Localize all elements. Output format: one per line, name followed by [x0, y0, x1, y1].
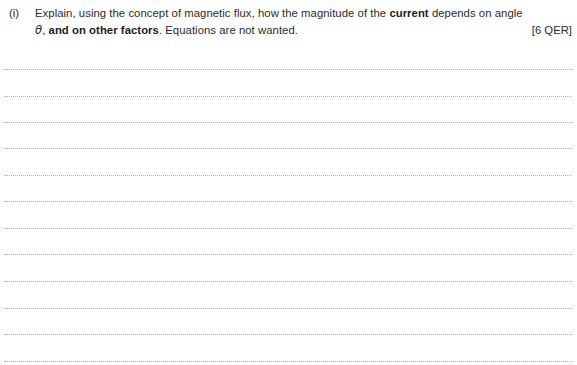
question-marks-allocation: [6 QER] [532, 22, 572, 39]
answer-line [4, 334, 572, 335]
question-text: Explain, using the concept of magnetic f… [35, 5, 572, 39]
answer-ruled-lines [0, 0, 577, 365]
answer-line [4, 148, 572, 149]
question-emphasis-current: current [389, 7, 428, 19]
answer-line [4, 228, 572, 229]
question-number-label: (i) [9, 5, 19, 22]
answer-line [4, 175, 572, 176]
answer-line [4, 281, 572, 282]
answer-line [4, 361, 572, 362]
answer-line [4, 308, 572, 309]
question-emphasis-other-factors: and on other factors [49, 24, 159, 36]
question-text-segment-1: Explain, using the concept of magnetic f… [35, 7, 389, 19]
question-text-segment-4: . Equations are not wanted. [159, 24, 298, 36]
exam-question-page: (i) Explain, using the concept of magnet… [0, 0, 577, 365]
answer-line [4, 122, 572, 123]
question-block: (i) Explain, using the concept of magnet… [0, 0, 577, 48]
answer-line [4, 96, 572, 97]
answer-line [4, 201, 572, 202]
answer-line [4, 254, 572, 255]
answer-line [4, 69, 572, 70]
question-text-segment-2: depends on angle [429, 7, 523, 19]
